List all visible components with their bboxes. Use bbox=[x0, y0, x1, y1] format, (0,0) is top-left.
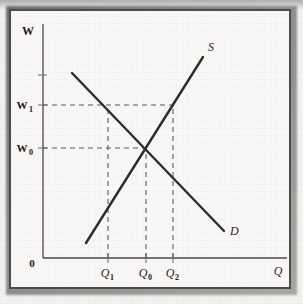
x-tick-label-q0: Q 0 bbox=[139, 266, 152, 282]
supply-curve-label: S bbox=[208, 40, 214, 54]
curves-group bbox=[72, 57, 224, 243]
y-tick-label-w1-subscript: 1 bbox=[29, 105, 33, 114]
x-tick-label-q2-subscript: 2 bbox=[175, 273, 179, 282]
origin-label: 0 bbox=[29, 257, 35, 269]
x-tick-label-q0-subscript: 0 bbox=[148, 273, 152, 282]
x-axis-label: Q bbox=[274, 264, 283, 278]
x-tick-label-q0-base: Q bbox=[139, 266, 148, 280]
y-tick-label-w0-subscript: 0 bbox=[29, 148, 33, 157]
x-tick-label-q1-subscript: 1 bbox=[110, 273, 114, 282]
x-tick-label-q2-base: Q bbox=[166, 266, 175, 280]
supply-demand-plot: W Q 0 W 1 W 0 Q 1 Q 0 Q 2 S D bbox=[0, 0, 303, 304]
y-tick-label-w1: W 1 bbox=[17, 99, 34, 114]
x-tick-label-q2: Q 2 bbox=[166, 266, 179, 282]
y-tick-label-w0: W 0 bbox=[17, 142, 34, 157]
x-tick-label-q1-base: Q bbox=[101, 266, 110, 280]
figure-container: W Q 0 W 1 W 0 Q 1 Q 0 Q 2 S D bbox=[0, 0, 303, 304]
y-axis-label: W bbox=[22, 24, 34, 38]
y-tick-label-w1-base: W bbox=[17, 99, 28, 111]
guide-lines-group bbox=[43, 105, 173, 258]
demand-curve bbox=[72, 73, 224, 231]
y-tick-label-w0-base: W bbox=[17, 142, 28, 154]
axes-group bbox=[43, 24, 287, 258]
demand-curve-label: D bbox=[229, 224, 239, 238]
x-tick-label-q1: Q 1 bbox=[101, 266, 114, 282]
